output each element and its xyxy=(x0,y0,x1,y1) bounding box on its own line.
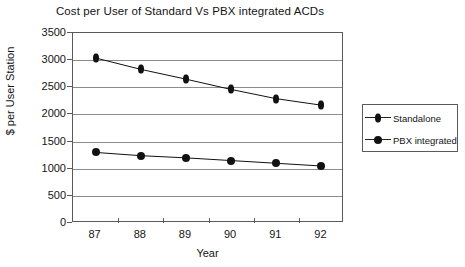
series-line xyxy=(96,58,322,105)
y-tick-label: 2500 xyxy=(22,80,66,92)
x-tick-label: 92 xyxy=(300,228,340,240)
data-point-diamond xyxy=(318,101,324,110)
x-tick-label: 89 xyxy=(165,228,205,240)
data-point-circle xyxy=(317,162,325,170)
y-tick-label: 3500 xyxy=(22,26,66,38)
series-lines xyxy=(73,33,344,223)
chart-legend: Standalone PBX integrated xyxy=(362,104,458,152)
data-point-circle xyxy=(182,154,190,162)
y-tick-mark xyxy=(67,222,72,223)
legend-label: Standalone xyxy=(393,113,441,124)
data-point-diamond xyxy=(93,53,99,62)
diamond-icon xyxy=(363,110,393,126)
data-point-circle xyxy=(137,152,145,160)
x-axis-title: Year xyxy=(72,247,343,259)
legend-item-pbx-integrated: PBX integrated xyxy=(363,130,457,150)
legend-item-standalone: Standalone xyxy=(363,108,457,128)
x-tick-label: 90 xyxy=(210,228,250,240)
data-point-circle xyxy=(92,148,100,156)
y-tick-label: 1000 xyxy=(22,162,66,174)
data-point-diamond xyxy=(138,65,144,74)
y-tick-label: 500 xyxy=(22,189,66,201)
plot-area xyxy=(72,32,343,222)
data-point-diamond xyxy=(183,75,189,84)
y-axis-title: $ per User Station xyxy=(4,26,16,156)
x-tick-label: 88 xyxy=(120,228,160,240)
circle-icon xyxy=(363,132,393,148)
data-point-diamond xyxy=(273,94,279,103)
series-line xyxy=(96,152,322,166)
x-tick-label: 87 xyxy=(75,228,115,240)
chart-title: Cost per User of Standard Vs PBX integra… xyxy=(0,5,380,17)
y-tick-label: 1500 xyxy=(22,135,66,147)
data-point-circle xyxy=(272,159,280,167)
x-tick-label: 91 xyxy=(255,228,295,240)
y-tick-label: 3000 xyxy=(22,53,66,65)
data-point-circle xyxy=(227,157,235,165)
data-point-diamond xyxy=(228,85,234,94)
y-tick-label: 2000 xyxy=(22,107,66,119)
chart-container: Cost per User of Standard Vs PBX integra… xyxy=(0,0,465,267)
legend-label: PBX integrated xyxy=(393,135,457,146)
y-tick-label: 0 xyxy=(22,216,66,228)
